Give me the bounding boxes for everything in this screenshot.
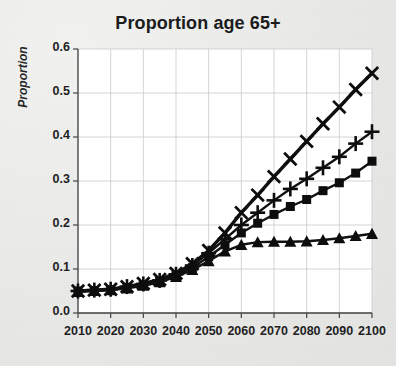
data-point-square xyxy=(351,169,360,178)
data-point-square xyxy=(237,228,246,237)
data-point-square xyxy=(253,219,262,228)
chart-figure: Proportion age 65+ Proportion 0.00.10.20… xyxy=(0,0,396,366)
data-point-square xyxy=(368,157,377,166)
plot-canvas xyxy=(0,0,396,366)
data-point-square xyxy=(286,202,295,211)
data-point-square xyxy=(302,195,311,204)
data-point-square xyxy=(270,210,279,219)
data-point-square xyxy=(335,178,344,187)
data-point-square xyxy=(319,186,328,195)
